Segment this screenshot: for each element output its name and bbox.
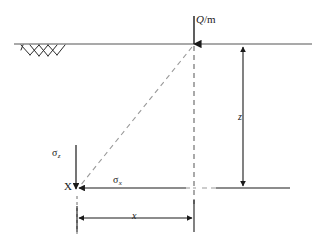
soil-stress-diagram: Q/m z x σz σx X	[0, 0, 327, 246]
sigma-z-subscript: z	[58, 152, 61, 160]
diagram-canvas	[0, 0, 327, 246]
load-unit: m	[207, 13, 216, 25]
ground-hatch-icon	[21, 45, 65, 56]
sigma-x-label: σx	[113, 175, 122, 187]
stress-point-label: X	[64, 181, 72, 192]
sigma-x-subscript: x	[119, 179, 122, 187]
diagonal-dashed-ray	[80, 47, 192, 186]
horizontal-dimension-label: x	[132, 211, 136, 221]
depth-dimension-label: z	[238, 112, 242, 122]
sigma-x-symbol: σ	[113, 174, 118, 185]
load-label: Q/m	[196, 14, 216, 25]
load-symbol: Q	[196, 13, 204, 25]
sigma-z-symbol: σ	[52, 147, 57, 158]
sigma-z-label: σz	[52, 148, 61, 160]
